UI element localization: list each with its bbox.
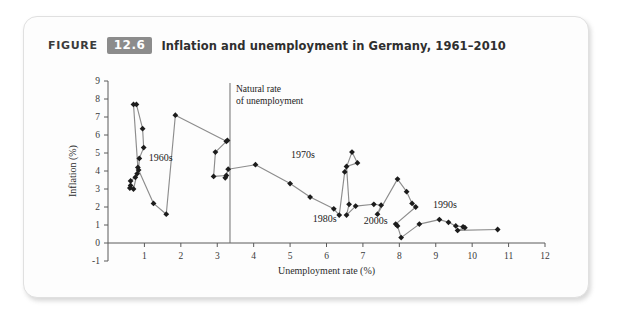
x-tick-label: 1 (142, 251, 147, 261)
y-tick-label: 0 (95, 238, 100, 248)
data-point-marker (211, 174, 217, 180)
data-point-marker (344, 164, 350, 170)
x-tick-label: 2 (178, 251, 183, 261)
decade-label-1980s: 1980s (313, 213, 337, 224)
x-axis-title: Unemployment rate (%) (278, 265, 375, 277)
y-tick-label: 3 (95, 184, 100, 194)
x-tick-label: 9 (433, 251, 438, 261)
y-tick-label: -1 (92, 256, 100, 266)
y-tick-label: 4 (95, 166, 100, 176)
natural-rate-label-line2: of unemployment (236, 96, 304, 106)
x-tick-label: 6 (324, 251, 329, 261)
data-point-marker (253, 162, 259, 168)
data-point-marker (495, 227, 501, 233)
data-point-marker (346, 201, 352, 207)
data-point-marker (172, 112, 178, 118)
data-point-marker (140, 126, 146, 132)
data-point-marker (141, 145, 147, 151)
x-tick-label: 12 (540, 251, 550, 261)
decade-label-2000s: 2000s (364, 215, 388, 226)
figure-card: FIGURE 12.6 Inflation and unemployment i… (23, 16, 589, 298)
decade-label-1960s: 1960s (149, 152, 173, 163)
natural-rate-label-line1: Natural rate (236, 84, 281, 94)
data-point-marker (355, 160, 361, 166)
y-axis-title: Inflation (%) (67, 145, 79, 197)
y-tick-label: 7 (95, 112, 100, 122)
y-tick-label: 2 (95, 202, 100, 212)
decade-label-1990s: 1990s (433, 199, 457, 210)
axes-group: -10123456789123456789101112Unemployment … (67, 76, 550, 277)
data-point-marker (371, 201, 377, 207)
data-point-marker (134, 102, 140, 108)
x-tick-label: 4 (251, 251, 256, 261)
x-tick-label: 3 (215, 251, 220, 261)
y-tick-label: 9 (95, 76, 100, 86)
x-tick-label: 10 (467, 251, 477, 261)
decade-label-1970s: 1970s (291, 149, 315, 160)
x-tick-label: 7 (361, 251, 366, 261)
data-point-marker (436, 217, 442, 223)
y-tick-label: 5 (95, 148, 100, 158)
data-point-marker (446, 219, 452, 225)
x-tick-label: 11 (504, 251, 513, 261)
x-tick-label: 8 (397, 251, 402, 261)
phillips-curve-scatter-chart: -10123456789123456789101112Unemployment … (24, 17, 590, 299)
x-tick-label: 5 (288, 251, 293, 261)
y-tick-label: 8 (95, 94, 100, 104)
y-tick-label: 6 (95, 130, 100, 140)
data-point-marker (349, 149, 355, 155)
y-tick-label: 1 (95, 220, 100, 230)
